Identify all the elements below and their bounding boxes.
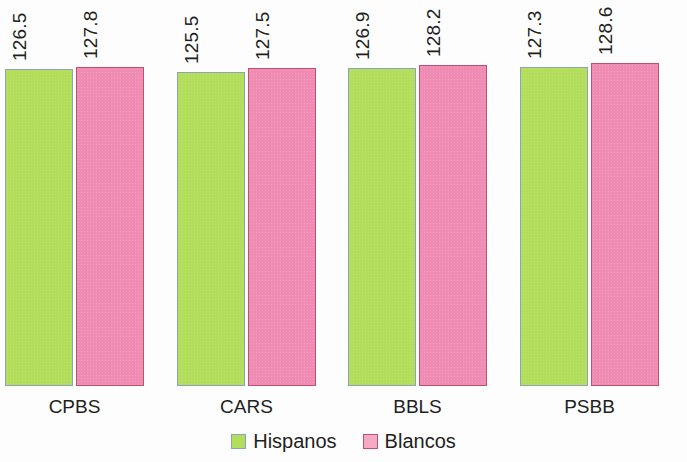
legend-entry-hispanos[interactable]: Hispanos xyxy=(231,430,336,453)
value-label-psbb-hispanos: 127.3 xyxy=(524,10,546,59)
value-label-psbb-blancos: 128.6 xyxy=(595,6,617,55)
legend-swatch-hispanos-icon xyxy=(231,434,246,449)
bar-slot-cars-hispanos: 125.5 xyxy=(177,72,245,386)
bar-bbls-blancos xyxy=(419,65,487,386)
value-label-bbls-blancos: 128.2 xyxy=(423,8,445,57)
value-label-cpbs-hispanos: 126.5 xyxy=(9,12,31,61)
bar-cpbs-hispanos xyxy=(5,69,73,386)
bar-psbb-hispanos xyxy=(520,67,588,386)
category-label-psbb: PSBB xyxy=(520,396,659,418)
bar-group-psbb: 127.3 128.6 xyxy=(480,0,687,386)
bar-bbls-hispanos xyxy=(348,68,416,386)
legend-entry-blancos[interactable]: Blancos xyxy=(363,430,456,453)
bar-slot-cpbs-hispanos: 126.5 xyxy=(5,69,73,386)
bar-slot-cars-blancos: 127.5 xyxy=(248,68,316,386)
bar-slot-bbls-blancos: 128.2 xyxy=(419,65,487,386)
category-label-bbls: BBLS xyxy=(348,396,487,418)
bar-group-bbls: 126.9 128.2 xyxy=(320,0,480,386)
bar-cpbs-blancos xyxy=(76,67,144,386)
bar-chart: 126.5 127.8 125.5 127.5 126.9 xyxy=(0,0,687,462)
bar-slot-psbb-blancos: 128.6 xyxy=(591,63,659,386)
bar-cars-hispanos xyxy=(177,72,245,386)
bar-slot-psbb-hispanos: 127.3 xyxy=(520,67,588,386)
chart-legend: Hispanos Blancos xyxy=(0,430,687,453)
plot-area: 126.5 127.8 125.5 127.5 126.9 xyxy=(0,0,687,386)
bar-group-cars: 125.5 127.5 xyxy=(160,0,320,386)
bar-slot-cpbs-blancos: 127.8 xyxy=(76,67,144,386)
value-label-cpbs-blancos: 127.8 xyxy=(80,10,102,59)
category-label-cars: CARS xyxy=(177,396,316,418)
bar-cars-blancos xyxy=(248,68,316,386)
legend-swatch-blancos-icon xyxy=(363,434,378,449)
legend-label-hispanos: Hispanos xyxy=(253,430,336,453)
category-label-cpbs: CPBS xyxy=(5,396,144,418)
value-label-bbls-hispanos: 126.9 xyxy=(352,11,374,60)
bar-group-cpbs: 126.5 127.8 xyxy=(0,0,160,386)
bar-slot-bbls-hispanos: 126.9 xyxy=(348,68,416,386)
value-label-cars-hispanos: 125.5 xyxy=(181,15,203,64)
value-label-cars-blancos: 127.5 xyxy=(252,11,274,60)
bar-psbb-blancos xyxy=(591,63,659,386)
legend-label-blancos: Blancos xyxy=(385,430,456,453)
